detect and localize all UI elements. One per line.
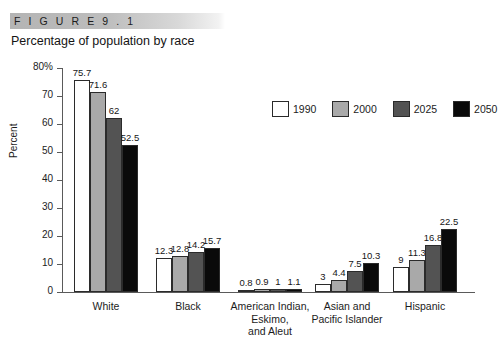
bar[interactable]	[74, 80, 90, 292]
y-tick-mark	[57, 152, 62, 153]
bar-value-label: 11.3	[408, 247, 426, 258]
bar[interactable]	[254, 289, 270, 292]
x-axis-category-label: White	[93, 300, 120, 313]
bar-value-label: 0.8	[239, 277, 252, 288]
legend-item-2025[interactable]: 2025	[393, 101, 437, 117]
y-tick-mark	[57, 96, 62, 97]
bar[interactable]	[347, 271, 363, 292]
bar[interactable]	[315, 284, 331, 292]
bar-value-label: 16.8	[424, 232, 443, 243]
y-tick-label: 80%	[33, 61, 53, 72]
bar-slot: 75.7	[74, 68, 90, 292]
y-tick-label: 40	[42, 173, 53, 184]
bar-value-label: 62	[109, 105, 120, 116]
bar[interactable]	[172, 256, 188, 292]
bar[interactable]	[331, 280, 347, 292]
legend-item-2050[interactable]: 2050	[453, 101, 497, 117]
y-tick-label: 0	[47, 285, 53, 296]
bar[interactable]	[238, 290, 254, 292]
bar-slot: 14.2	[188, 68, 204, 292]
y-tick-label: 50	[42, 145, 53, 156]
y-tick-mark	[57, 292, 62, 293]
bar-value-label: 1	[275, 276, 280, 287]
bar-slot: 0.8	[238, 68, 254, 292]
y-tick-mark	[57, 236, 62, 237]
legend-item-1990[interactable]: 1990	[272, 101, 316, 117]
bar-slot: 0.9	[254, 68, 270, 292]
legend-item-2000[interactable]: 2000	[332, 101, 376, 117]
bar[interactable]	[270, 289, 286, 292]
y-axis-title: Percent	[8, 124, 19, 158]
bar-slot: 62	[106, 68, 122, 292]
bar-value-label: 7.5	[348, 258, 361, 269]
bar-slot: 52.5	[122, 68, 138, 292]
bar[interactable]	[393, 267, 409, 292]
x-axis-category-label: American Indian, Eskimo, and Aleut	[231, 300, 310, 338]
y-tick-mark	[57, 124, 62, 125]
x-axis-category-label: Hispanic	[405, 300, 445, 313]
bar-group: 75.771.66252.5	[74, 68, 138, 292]
bar-value-label: 22.5	[440, 216, 459, 227]
figure-number-label: F I G U R E 9 . 1	[14, 14, 136, 29]
bar-slot: 71.6	[90, 68, 106, 292]
legend-label: 2025	[414, 103, 437, 115]
bar-slot: 15.7	[204, 68, 220, 292]
bar[interactable]	[441, 229, 457, 292]
y-tick-mark	[57, 180, 62, 181]
y-tick-mark	[57, 68, 62, 69]
bar[interactable]	[106, 118, 122, 292]
y-tick-mark	[57, 208, 62, 209]
legend-label: 2050	[474, 103, 497, 115]
chart-legend: 1990200020252050	[272, 101, 502, 117]
bar[interactable]	[409, 260, 425, 292]
bar-value-label: 15.7	[203, 235, 222, 246]
bar[interactable]	[363, 263, 379, 292]
y-tick-label: 70	[42, 89, 53, 100]
bar[interactable]	[156, 258, 172, 292]
legend-swatch-icon	[453, 101, 470, 117]
y-tick-label: 20	[42, 229, 53, 240]
bar-value-label: 4.4	[332, 267, 345, 278]
bar-value-label: 75.7	[73, 67, 92, 78]
legend-swatch-icon	[332, 101, 349, 117]
y-tick-label: 30	[42, 201, 53, 212]
bar[interactable]	[188, 252, 204, 292]
x-axis-category-label: Asian and Pacific Islander	[311, 300, 382, 325]
bar[interactable]	[286, 289, 302, 292]
legend-label: 1990	[293, 103, 316, 115]
bar-value-label: 1.1	[287, 276, 300, 287]
bar[interactable]	[90, 92, 106, 292]
bar-value-label: 71.6	[89, 79, 108, 90]
bar[interactable]	[425, 245, 441, 292]
legend-swatch-icon	[272, 101, 289, 117]
legend-label: 2000	[353, 103, 376, 115]
bar[interactable]	[122, 145, 138, 292]
y-tick-mark	[57, 264, 62, 265]
bar-slot: 12.8	[172, 68, 188, 292]
y-tick-label: 10	[42, 257, 53, 268]
x-axis-line	[62, 292, 475, 293]
figure-subtitle: Percentage of population by race	[11, 34, 194, 48]
bar-value-label: 0.9	[255, 276, 268, 287]
bar-value-label: 52.5	[121, 132, 140, 143]
bar-value-label: 9	[398, 254, 403, 265]
bar-group: 12.312.814.215.7	[156, 68, 220, 292]
bar[interactable]	[204, 248, 220, 292]
bar-value-label: 10.3	[362, 250, 381, 261]
bar-slot: 12.3	[156, 68, 172, 292]
y-tick-label: 60	[42, 117, 53, 128]
legend-swatch-icon	[393, 101, 410, 117]
x-axis-category-label: Black	[175, 300, 201, 313]
bar-value-label: 3	[320, 271, 325, 282]
